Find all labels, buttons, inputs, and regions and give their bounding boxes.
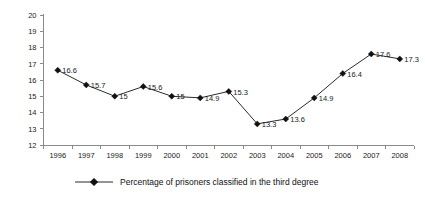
data-point-label: 16.4	[347, 70, 362, 79]
x-axis-tick-label: 2008	[391, 151, 408, 160]
data-point-marker	[112, 93, 118, 99]
data-point-label: 14.9	[205, 94, 220, 103]
chart-legend: Percentage of prisoners classified in th…	[75, 177, 319, 187]
y-axis-tick-label: 19	[28, 27, 36, 36]
data-point-label: 15	[119, 92, 127, 101]
data-point-label: 15.3	[233, 88, 248, 97]
y-axis-tick-label: 12	[28, 141, 36, 150]
data-point-label: 15	[176, 92, 184, 101]
data-point-label: 13.6	[290, 115, 305, 124]
y-axis-tick-label: 15	[28, 92, 36, 101]
y-axis-tick-label: 16	[28, 76, 36, 85]
data-point-label: 15.6	[148, 83, 163, 92]
y-axis-tick-label: 14	[28, 108, 36, 117]
series-data-label-group: 16.615.71515.61514.915.313.313.614.916.4…	[62, 50, 419, 129]
x-axis-tick-label: 2001	[192, 151, 209, 160]
legend-diamond-icon	[90, 178, 98, 186]
series-group: 16.615.71515.61514.915.313.313.614.916.4…	[55, 50, 419, 129]
data-point-label: 13.3	[262, 120, 277, 129]
x-axis-tick-label: 2005	[306, 151, 323, 160]
y-axis-tick-label: 20	[28, 11, 36, 20]
x-axis-tick-label: 1999	[135, 151, 152, 160]
x-axis-tick-label: 2002	[220, 151, 237, 160]
x-axis-tick-label: 1997	[78, 151, 95, 160]
x-axis-tick-label: 1998	[106, 151, 123, 160]
series-marker-group	[55, 51, 403, 127]
chart-figure: 201918171615141312 199619971998199920002…	[0, 0, 425, 199]
chart-axes	[44, 14, 415, 146]
data-point-marker	[197, 95, 203, 101]
data-point-marker	[55, 67, 61, 73]
data-point-marker	[397, 56, 403, 62]
legend-label: Percentage of prisoners classified in th…	[120, 177, 319, 187]
y-axis-tick-label: 18	[28, 43, 36, 52]
x-axis-tick-label: 2003	[249, 151, 266, 160]
x-tick-group: 1996199719981999200020012002200320042005…	[44, 146, 415, 161]
x-axis-tick-label: 2000	[163, 151, 180, 160]
x-axis-tick-label: 2004	[277, 151, 294, 160]
data-point-marker	[83, 82, 89, 88]
data-point-label: 14.9	[319, 94, 334, 103]
data-point-marker	[140, 84, 146, 90]
data-point-label: 17.3	[404, 55, 419, 64]
data-point-label: 15.7	[91, 81, 106, 90]
y-tick-group: 201918171615141312	[28, 11, 43, 150]
data-point-marker	[169, 93, 175, 99]
data-point-label: 16.6	[62, 66, 77, 75]
data-point-label: 17.6	[376, 50, 391, 59]
data-point-marker	[368, 51, 374, 57]
x-axis-tick-label: 1996	[49, 151, 66, 160]
x-axis-tick-label: 2007	[363, 151, 380, 160]
x-axis-tick-label: 2006	[334, 151, 351, 160]
y-axis-tick-label: 17	[28, 60, 36, 69]
line-chart: 201918171615141312 199619971998199920002…	[0, 0, 425, 199]
y-axis-tick-label: 13	[28, 125, 36, 134]
